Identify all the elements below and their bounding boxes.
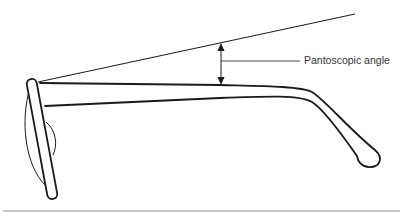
arrow-head-up-icon <box>218 43 225 51</box>
temple-arm <box>40 83 380 167</box>
pantoscopic-angle-label: Pantoscopic angle <box>304 54 390 66</box>
angle-reference-line <box>38 14 355 82</box>
arrow-head-down-icon <box>218 77 225 85</box>
spectacles-diagram <box>0 0 402 214</box>
